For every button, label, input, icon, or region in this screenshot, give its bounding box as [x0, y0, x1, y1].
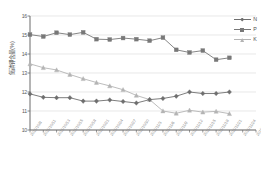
legend-label-p: P — [253, 26, 257, 33]
chart-legend: N P K — [234, 16, 257, 43]
legend-item-k: K — [234, 36, 257, 43]
series-k — [28, 62, 232, 116]
legend-swatch-n — [234, 16, 251, 23]
legend-label-n: N — [253, 16, 257, 23]
legend-swatch-p — [234, 26, 251, 33]
legend-item-p: P — [234, 26, 257, 33]
gridlines — [30, 16, 256, 130]
chart-container: 氮磷钾含量(%) 16151413121110 2011/10/82011/10… — [0, 0, 261, 170]
legend-item-n: N — [234, 16, 257, 23]
legend-label-k: K — [253, 36, 257, 43]
legend-swatch-k — [234, 36, 251, 43]
plot-area — [0, 0, 261, 170]
